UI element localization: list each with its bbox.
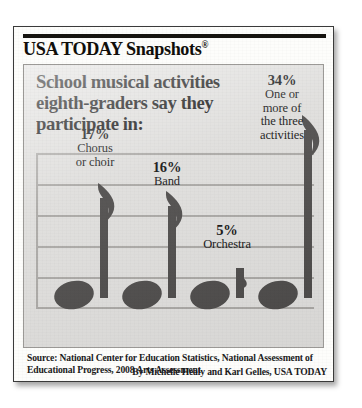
note-flag (237, 273, 251, 289)
note-bar-one-or-more (258, 133, 314, 309)
content-panel: School musical activities eighth-graders… (23, 64, 324, 348)
note-bar-chorus (54, 201, 110, 309)
data-label-chorus: 17% Chorus or choir (58, 127, 132, 169)
brand-title-text: USA TODAY Snapshots (23, 38, 201, 59)
data-label-band: 16% Band (137, 160, 197, 189)
data-label-orchestra-line1: Orchestra (187, 238, 267, 252)
data-label-one-or-more-percent: 34% (248, 73, 316, 88)
data-label-chorus-line2: or choir (58, 156, 132, 170)
note-bar-band (122, 209, 178, 309)
data-label-one-or-more-line3: the three (248, 115, 316, 129)
data-label-chorus-percent: 17% (58, 127, 132, 142)
note-head (52, 277, 97, 312)
note-head (256, 277, 301, 312)
data-label-one-or-more-line4: activities (248, 129, 316, 143)
note-bar-orchestra (190, 269, 246, 309)
note-head (188, 277, 233, 312)
data-label-band-line1: Band (137, 175, 197, 189)
data-label-one-or-more-line1: One or (248, 88, 316, 102)
registered-trademark-icon: ® (201, 39, 208, 50)
note-flag (96, 183, 122, 223)
data-label-chorus-line1: Chorus (58, 142, 132, 156)
data-label-orchestra: 5% Orchestra (187, 223, 267, 252)
data-label-band-percent: 16% (137, 160, 197, 175)
byline: By Michelle Healy and Karl Gelles, USA T… (132, 366, 327, 377)
data-label-one-or-more-line2: more of (248, 102, 316, 116)
data-label-one-or-more: 34% One or more of the three activities (248, 73, 316, 142)
data-label-orchestra-percent: 5% (187, 223, 267, 238)
brand-title: USA TODAY Snapshots® (23, 38, 302, 60)
page-title: School musical activities eighth-graders… (36, 71, 233, 134)
note-head (120, 277, 165, 312)
snapshot-card: USA TODAY Snapshots® School musical acti… (13, 26, 334, 382)
source-divider (23, 347, 324, 348)
staff-axis-line (36, 153, 38, 309)
